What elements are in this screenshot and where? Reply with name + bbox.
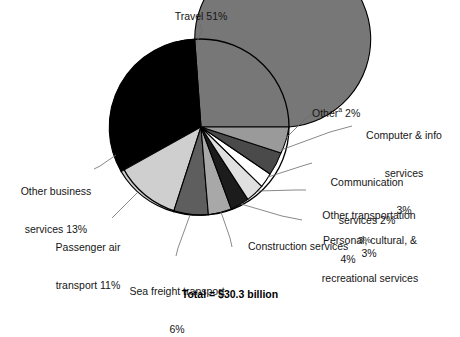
leader-line-other-transportation xyxy=(258,190,306,191)
leader-line-construction xyxy=(221,212,232,247)
slice-label-travel: Travel 51% xyxy=(142,10,260,23)
leader-line-personal xyxy=(241,204,302,220)
other-business-line2: services 13% xyxy=(8,223,104,236)
leader-line-computer-info xyxy=(281,126,352,150)
slice-label-construction-percent: 4% xyxy=(330,253,366,266)
slice-label-other-business-services: Other business services 13% xyxy=(8,160,104,260)
leader-line-passenger-air xyxy=(112,193,137,218)
other-business-line1: Other business xyxy=(8,185,104,198)
leader-line-sea-freight xyxy=(176,215,190,256)
slice-label-construction-services: Construction services xyxy=(248,240,370,253)
computer-info-line1: Computer & info xyxy=(352,129,456,142)
chart-total-label: Total = $30.3 billion xyxy=(0,288,460,300)
slice-label-other-text: Other xyxy=(312,107,338,119)
personal-line2: recreational services xyxy=(300,272,440,285)
sea-freight-percent: 6% xyxy=(110,323,244,336)
